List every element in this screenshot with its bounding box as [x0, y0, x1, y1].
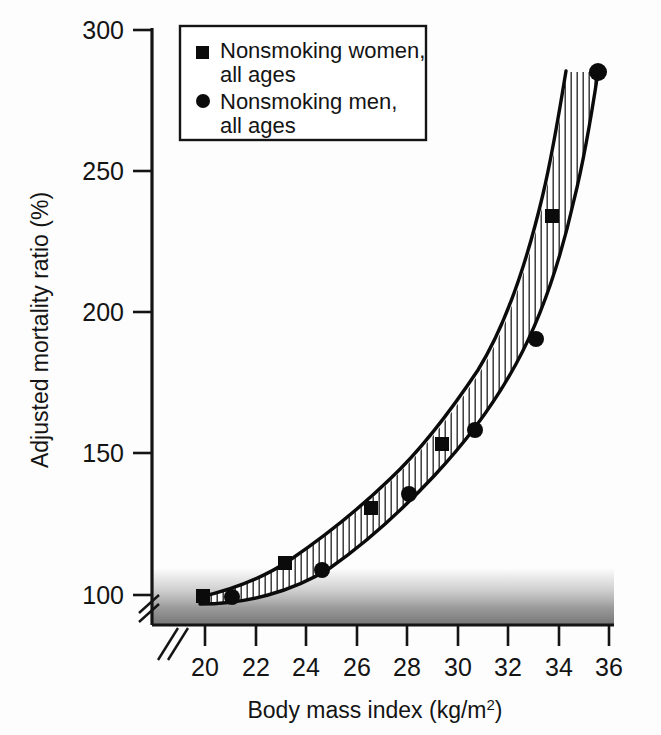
legend-circle-marker-icon: [196, 94, 210, 108]
data-point-women-2: [278, 556, 292, 570]
data-point-women-3: [364, 501, 378, 515]
data-point-men-4: [467, 422, 483, 438]
x-tick-label-34: 34: [545, 653, 573, 681]
data-point-women-5: [545, 209, 559, 223]
legend-label-women-line2: all ages: [220, 62, 296, 87]
x-tick-label-24: 24: [292, 653, 320, 681]
data-point-women-1: [196, 589, 210, 603]
x-tick-label-32: 32: [494, 653, 522, 681]
y-tick-label-150: 150: [82, 439, 124, 467]
data-point-men-5: [528, 331, 544, 347]
y-tick-label-250: 250: [82, 157, 124, 185]
chart-legend: Nonsmoking women, all ages Nonsmoking me…: [180, 26, 426, 140]
data-point-men-3: [401, 486, 417, 502]
x-tick-label-22: 22: [242, 653, 270, 681]
legend-label-men-line2: all ages: [220, 113, 296, 138]
y-tick-label-300: 300: [82, 16, 124, 44]
data-point-men-6: [589, 63, 607, 81]
y-axis-title: Adjusted mortality ratio (%): [27, 192, 53, 468]
y-tick-label-100: 100: [82, 581, 124, 609]
x-tick-label-30: 30: [444, 653, 472, 681]
x-tick-label-28: 28: [393, 653, 421, 681]
y-tick-label-200: 200: [82, 298, 124, 326]
legend-label-women-line1: Nonsmoking women,: [220, 38, 425, 63]
x-tick-label-20: 20: [191, 653, 219, 681]
x-tick-label-36: 36: [595, 653, 623, 681]
mortality-vs-bmi-chart: 300 250 200 150 100 20 22: [0, 0, 661, 735]
x-axis-title: Body mass index (kg/m2): [247, 696, 502, 723]
chart-figure: 300 250 200 150 100 20 22: [0, 0, 661, 735]
x-tick-label-26: 26: [343, 653, 371, 681]
legend-label-men-line1: Nonsmoking men,: [220, 89, 397, 114]
legend-square-marker-icon: [196, 46, 209, 59]
data-point-women-4: [435, 437, 449, 451]
data-point-men-1: [224, 589, 240, 605]
x-axis-ticks: 20 22 24 26 28 30 32 34 36: [191, 625, 623, 681]
data-point-men-2: [314, 562, 330, 578]
